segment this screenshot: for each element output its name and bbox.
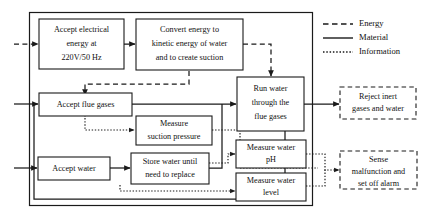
legend-information-label: Information [359,46,401,56]
block-measure-water-ph-line-2: pH [266,155,276,164]
block-measure-water-level-line-1: Measure water [247,176,296,185]
block-reject-inert-gases-and-water[interactable]: Reject inert gases and water [340,87,416,119]
flow-flue-gases-to-suction-pressure [85,115,134,130]
legend-item-material: Material [323,32,389,42]
block-sense-malfunction[interactable]: Sense malfunction and set off alarm [340,151,417,189]
block-sense-malfunction-line-2: malfunction and [352,167,405,176]
block-accept-electrical-energy-line-1: Accept electrical [54,25,110,34]
block-accept-electrical-energy-line-2: energy at [66,39,97,48]
block-accept-flue-gases-line-1: Accept flue gases [57,100,115,109]
block-store-water-line-2: need to replace [145,170,195,179]
block-accept-electrical-energy[interactable]: Accept electrical energy at 220V/50 Hz [39,19,124,69]
block-accept-water-line-1: Accept water [52,164,96,173]
flow-convert-to-run-water [243,44,271,76]
block-measure-suction-pressure[interactable]: Measure suction pressure [136,116,212,145]
block-accept-flue-gases[interactable]: Accept flue gases [39,93,132,116]
legend-item-information: Information [323,46,401,56]
block-measure-water-level[interactable]: Measure water level [236,173,306,201]
block-convert-energy-line-2: kinetic energy of water [152,39,228,48]
legend: Energy Material Information [323,18,401,56]
block-measure-water-ph-line-1: Measure water [247,143,296,152]
flow-store-water-to-level [120,185,235,191]
block-run-water-line-2: through the [252,98,290,107]
block-sense-malfunction-line-1: Sense [369,155,388,164]
block-convert-energy[interactable]: Convert energy to kinetic energy of wate… [136,19,243,70]
block-measure-suction-pressure-line-2: suction pressure [148,132,201,141]
block-measure-suction-pressure-line-1: Measure [160,119,189,128]
diagram-canvas: Accept electrical energy at 220V/50 Hz C… [0,0,429,217]
flow-ph-to-sense-malfunction [306,154,339,170]
block-convert-energy-line-3: and to create suction [156,53,224,62]
flow-convert-to-flue-gases [85,71,189,95]
functional-block-diagram: Accept electrical energy at 220V/50 Hz C… [0,0,429,217]
block-run-water-through-flue-gases[interactable]: Run water through the flue gases [237,77,304,131]
block-reject-inert-line-2: gases and water [352,104,404,113]
block-convert-energy-line-1: Convert energy to [160,25,219,34]
block-run-water-line-3: flue gases [254,112,287,121]
block-sense-malfunction-line-3: set off alarm [358,179,400,188]
block-run-water-line-1: Run water [254,84,288,93]
legend-material-label: Material [359,32,389,42]
block-store-water[interactable]: Store water until need to replace [131,153,209,184]
block-measure-water-ph[interactable]: Measure water pH [236,140,306,168]
block-measure-water-level-line-2: level [263,188,280,197]
flow-level-to-sense-malfunction [306,170,325,186]
legend-energy-label: Energy [359,18,384,28]
legend-item-energy: Energy [323,18,384,28]
block-store-water-line-1: Store water until [143,157,198,166]
block-reject-inert-line-1: Reject inert [359,92,398,101]
block-accept-water[interactable]: Accept water [38,157,110,180]
block-accept-electrical-energy-line-3: 220V/50 Hz [61,53,102,62]
